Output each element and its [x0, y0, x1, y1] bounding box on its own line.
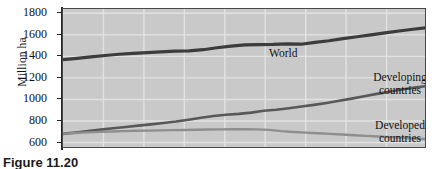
series-line: [63, 28, 426, 60]
y-axis-tick-labels: 60080010001200140016001800: [0, 0, 56, 169]
series-label-developed: Developed countries: [363, 119, 426, 145]
series-label-world: World: [269, 47, 297, 60]
y-axis-tick-label: 1000: [23, 92, 47, 104]
y-axis-tick-label: 1400: [23, 49, 47, 61]
series-label-developing-line1: Developing: [363, 71, 426, 84]
series-label-developed-line1: Developed: [363, 119, 426, 132]
plot-area: World Developing countries Developed cou…: [62, 8, 426, 148]
series-label-developed-line2: countries: [363, 132, 426, 145]
y-axis-tick-label: 1800: [23, 6, 47, 18]
figure-caption: Figure 11.20: [3, 155, 78, 169]
series-label-developing: Developing countries: [363, 71, 426, 97]
y-axis-tick-label: 600: [29, 136, 47, 148]
y-axis-tick-label: 1600: [23, 28, 47, 40]
y-axis-tick-label: 1200: [23, 71, 47, 83]
y-axis-tick-label: 800: [29, 114, 47, 126]
figure-container: Million ha 60080010001200140016001800 Wo…: [0, 0, 436, 169]
series-label-developing-line2: countries: [363, 84, 426, 97]
